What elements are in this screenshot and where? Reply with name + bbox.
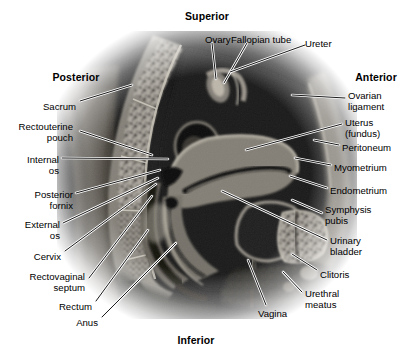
orientation-superior-label: Superior	[185, 10, 229, 22]
label-posterior-fornix-line-1: fornix	[35, 201, 73, 212]
photo-content	[57, 31, 357, 319]
label-vagina: Vagina	[258, 309, 287, 320]
label-endometrium-line-0: Endometrium	[330, 186, 387, 197]
label-ovary: Ovary	[205, 35, 231, 46]
sagittal-pelvis-photograph	[57, 31, 357, 319]
label-internal-os: Internalos	[27, 155, 59, 176]
label-external-os: Externalos	[25, 220, 60, 241]
label-symphysis-pubis: Symphysispubis	[325, 205, 371, 226]
label-rectovaginal-septum: Rectovaginalseptum	[30, 272, 85, 293]
anatomy-illustration	[57, 31, 357, 319]
label-sacrum: Sacrum	[43, 102, 76, 113]
label-urinary-bladder-line-1: bladder	[330, 247, 362, 258]
label-uterus-fundus: Uterus(fundus)	[345, 118, 380, 139]
orientation-inferior-label: Inferior	[178, 334, 215, 346]
label-urinary-bladder: Urinarybladder	[330, 236, 362, 257]
label-symphysis-pubis-line-1: pubis	[325, 216, 371, 227]
label-fallopian-tube: Fallopian tube	[231, 35, 291, 46]
label-ovarian-ligament: Ovarianligament	[348, 91, 384, 112]
photo-haze	[57, 31, 357, 319]
label-endometrium: Endometrium	[330, 186, 387, 197]
photo-canvas	[57, 31, 357, 319]
label-vagina-line-0: Vagina	[258, 309, 287, 320]
label-uterus-fundus-line-1: (fundus)	[345, 129, 380, 140]
label-anus-line-0: Anus	[76, 318, 98, 329]
label-cervix: Cervix	[34, 252, 61, 263]
label-ovary-line-0: Ovary	[205, 35, 231, 46]
label-rectum: Rectum	[59, 302, 92, 313]
label-sacrum-line-0: Sacrum	[43, 102, 76, 113]
label-anus: Anus	[76, 318, 98, 329]
label-rectovaginal-septum-line-0: Rectovaginal	[30, 272, 85, 283]
orientation-anterior: Anterior	[355, 71, 397, 83]
label-rectouterine-pouch-line-0: Rectouterine	[19, 122, 73, 133]
label-clitoris-line-0: Clitoris	[320, 270, 349, 281]
label-cervix-line-0: Cervix	[34, 252, 61, 263]
orientation-inferior: Inferior	[178, 334, 215, 346]
label-rectouterine-pouch: Rectouterinepouch	[19, 122, 73, 143]
label-urethral-meatus-line-0: Urethral	[305, 289, 339, 300]
label-rectouterine-pouch-line-1: pouch	[19, 133, 73, 144]
label-myometrium-line-0: Myometrium	[334, 163, 387, 174]
label-urethral-meatus-line-1: meatus	[305, 300, 339, 311]
label-ovarian-ligament-line-0: Ovarian	[348, 91, 384, 102]
label-fallopian-tube-line-0: Fallopian tube	[231, 35, 291, 46]
label-urinary-bladder-line-0: Urinary	[330, 236, 362, 247]
label-posterior-fornix: Posteriorfornix	[35, 190, 73, 211]
label-external-os-line-1: os	[25, 231, 60, 242]
label-peritoneum: Peritoneum	[342, 143, 391, 154]
label-ovarian-ligament-line-1: ligament	[348, 102, 384, 113]
orientation-anterior-label: Anterior	[355, 71, 397, 83]
label-symphysis-pubis-line-0: Symphysis	[325, 205, 371, 216]
orientation-superior: Superior	[185, 10, 229, 22]
orientation-posterior-label: Posterior	[53, 71, 100, 83]
orientation-posterior: Posterior	[53, 71, 100, 83]
label-ureter: Ureter	[305, 39, 332, 50]
label-external-os-line-0: External	[25, 220, 60, 231]
label-internal-os-line-1: os	[27, 166, 59, 177]
label-posterior-fornix-line-0: Posterior	[35, 190, 73, 201]
anatomy-figure: Superior Inferior Posterior Anterior Ova…	[0, 0, 414, 351]
label-rectovaginal-septum-line-1: septum	[30, 283, 85, 294]
label-peritoneum-line-0: Peritoneum	[342, 143, 391, 154]
label-myometrium: Myometrium	[334, 163, 387, 174]
label-ureter-line-0: Ureter	[305, 39, 332, 50]
label-uterus-fundus-line-0: Uterus	[345, 118, 380, 129]
label-internal-os-line-0: Internal	[27, 155, 59, 166]
label-urethral-meatus: Urethralmeatus	[305, 289, 339, 310]
label-rectum-line-0: Rectum	[59, 302, 92, 313]
label-clitoris: Clitoris	[320, 270, 349, 281]
